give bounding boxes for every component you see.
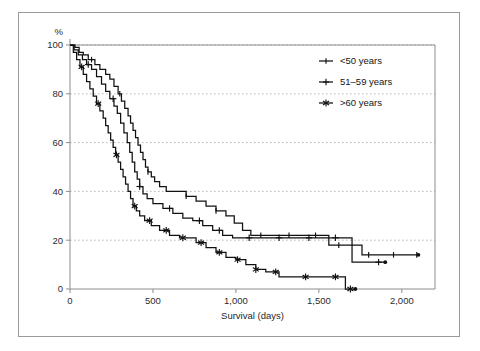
y-tick-label-100: 100 (47, 39, 63, 50)
series-curve-1 (70, 45, 385, 262)
y-tick-label-60: 60 (52, 137, 63, 148)
survival-chart: 020406080100%05001,0001,5002,000Survival… (19, 13, 461, 338)
series-endpoint-0 (417, 253, 421, 257)
x-tick-label-500: 500 (145, 295, 161, 306)
y-axis-unit-label: % (55, 26, 64, 37)
y-tick-label-40: 40 (52, 186, 63, 197)
x-tick-label-1500: 1,500 (307, 295, 331, 306)
y-tick-label-80: 80 (52, 88, 63, 99)
legend-label-1: 51–59 years (340, 76, 393, 87)
series-curve-2 (70, 45, 355, 289)
series-endpoint-1 (383, 260, 387, 264)
chart-stage: 020406080100%05001,0001,5002,000Survival… (19, 13, 461, 338)
legend-label-2: >60 years (340, 97, 382, 108)
figure-border: 020406080100%05001,0001,5002,000Survival… (18, 12, 460, 337)
x-axis-title: Survival (days) (221, 310, 284, 321)
x-tick-label-2000: 2,000 (390, 295, 414, 306)
y-tick-label-0: 0 (58, 283, 63, 294)
y-tick-label-20: 20 (52, 235, 63, 246)
legend-label-0: <50 years (340, 55, 382, 66)
x-tick-label-1000: 1,000 (224, 295, 248, 306)
series-endpoint-2 (353, 287, 357, 291)
x-tick-label-0: 0 (67, 295, 72, 306)
